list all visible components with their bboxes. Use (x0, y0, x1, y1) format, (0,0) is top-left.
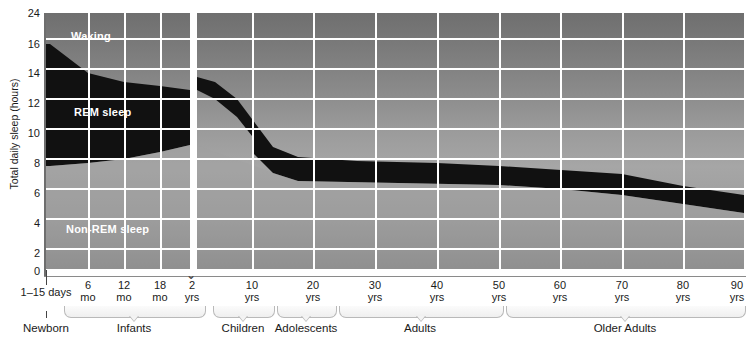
x-tick-90yrs: 90 yrs (730, 279, 745, 303)
rem-area-infancy (46, 44, 190, 166)
bracket-older-adults (506, 306, 744, 319)
area-label-non-rem: Non-REM sleep (66, 223, 149, 235)
plot-panel-lifespan (197, 13, 744, 269)
x-tick-value: 10 (246, 279, 258, 291)
x-tick-value: 6 (85, 279, 91, 291)
newborn-value: 1–15 (21, 286, 45, 298)
x-tick-unit: yrs (368, 291, 383, 303)
hgrid-16 (197, 38, 744, 40)
vgrid-10yrs (252, 13, 254, 269)
x-tick-50yrs: 50 yrs (492, 279, 507, 303)
hgrid-14 (197, 68, 744, 70)
hgrid-8 (197, 158, 744, 160)
x-tick-40yrs: 40 yrs (430, 279, 445, 303)
x-tick-60yrs: 60 yrs (553, 279, 568, 303)
bracket-infants (64, 306, 204, 319)
group-label-older-adults: Older Adults (594, 322, 657, 334)
x-tick-unit: yrs (676, 291, 691, 303)
area-paths-lifespan (197, 13, 744, 269)
x-tick-70yrs: 70 yrs (615, 279, 630, 303)
hgrid-8 (46, 158, 190, 160)
hgrid-16 (46, 38, 190, 40)
group-label-children: Children (222, 322, 265, 334)
x-axis-spine (44, 276, 746, 277)
vgrid-80yrs (683, 13, 685, 269)
x-tick-30yrs: 30 yrs (368, 279, 383, 303)
y-tick-0: 0 (14, 266, 40, 276)
x-tick-value: 40 (431, 279, 443, 291)
vgrid-18mo (160, 13, 162, 269)
x-tick-18mo: 18 mo (152, 279, 167, 303)
x-tick-6mo: 6 mo (80, 279, 95, 303)
hgrid-2 (46, 248, 190, 250)
x-tick-value: 20 (307, 279, 319, 291)
x-tick-unit: yrs (306, 291, 321, 303)
group-label-newborn: Newborn (23, 322, 69, 334)
group-label-infants: Infants (117, 322, 152, 334)
bracket-children (213, 306, 273, 319)
vgrid-60yrs (560, 13, 562, 269)
y-tick-4: 4 (14, 218, 40, 228)
newborn-unit: days (48, 286, 71, 298)
newborn-tick-label: 1–15 days (21, 286, 72, 298)
x-tick-12mo: 12 mo (116, 279, 131, 303)
y-tick-2: 2 (14, 248, 40, 258)
group-label-adults: Adults (404, 322, 436, 334)
x-tick-10yrs: 10 yrs (245, 279, 260, 303)
hgrid-14 (46, 68, 190, 70)
y-tick-14: 14 (14, 68, 40, 78)
bracket-adolescents (277, 306, 335, 319)
x-tick-unit: yrs (245, 291, 260, 303)
x-tick-unit: yrs (430, 291, 445, 303)
vgrid-50yrs (499, 13, 501, 269)
y-tick-6: 6 (14, 188, 40, 198)
vgrid-30yrs (375, 13, 377, 269)
x-tick-80yrs: 80 yrs (676, 279, 691, 303)
x-tick-value: 90 (731, 279, 743, 291)
y-tick-24: 24 (14, 8, 40, 18)
area-label-rem: REM sleep (74, 106, 131, 118)
group-label-adolescents: Adolescents (275, 322, 338, 334)
x-tick-unit: yrs (553, 291, 568, 303)
hgrid-6 (197, 188, 744, 190)
sleep-lifespan-chart: Total daily sleep (hours) 24 16 14 12 10… (0, 0, 751, 340)
hgrid-6 (46, 188, 190, 190)
x-tick-unit: mo (80, 291, 95, 303)
y-tick-10: 10 (14, 128, 40, 138)
hgrid-12 (197, 98, 744, 100)
y-tick-12: 12 (14, 98, 40, 108)
newborn-tick (46, 270, 47, 285)
x-tick-unit: yrs (615, 291, 630, 303)
area-label-waking: Waking (71, 30, 111, 42)
hgrid-4 (46, 218, 190, 220)
x-tick-unit: yrs (185, 291, 200, 303)
vgrid-70yrs (622, 13, 624, 269)
newborn-stem (46, 311, 47, 318)
hgrid-2 (197, 248, 744, 250)
x-tick-value: 60 (554, 279, 566, 291)
x-tick-value: 2 (189, 279, 195, 291)
hgrid-12 (46, 98, 190, 100)
x-tick-2yrs: 2 yrs (185, 279, 200, 303)
x-tick-value: 50 (493, 279, 505, 291)
x-tick-unit: mo (116, 291, 131, 303)
bracket-adults (339, 306, 502, 319)
x-tick-value: 18 (154, 279, 166, 291)
hgrid-4 (197, 218, 744, 220)
vgrid-20yrs (313, 13, 315, 269)
x-tick-20yrs: 20 yrs (306, 279, 321, 303)
x-tick-unit: mo (152, 291, 167, 303)
hgrid-10 (46, 128, 190, 130)
x-tick-value: 80 (677, 279, 689, 291)
y-tick-16: 16 (14, 39, 40, 49)
x-tick-value: 12 (118, 279, 130, 291)
y-axis-tick-labels: 24 16 14 12 10 8 6 4 2 0 (14, 0, 40, 290)
x-tick-value: 70 (616, 279, 628, 291)
vgrid-40yrs (437, 13, 439, 269)
axis-break-band (190, 13, 197, 269)
hgrid-10 (197, 128, 744, 130)
x-tick-unit: yrs (492, 291, 507, 303)
x-tick-value: 30 (369, 279, 381, 291)
x-tick-unit: yrs (730, 291, 745, 303)
y-tick-8: 8 (14, 158, 40, 168)
